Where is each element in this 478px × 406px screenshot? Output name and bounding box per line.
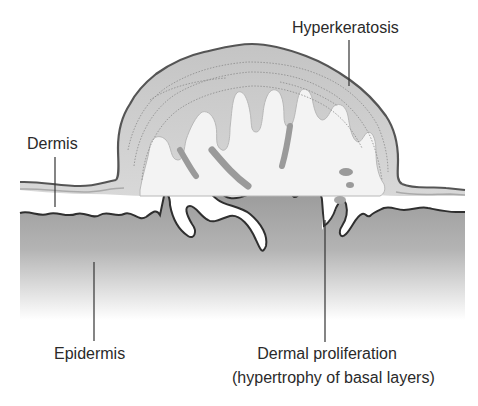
label-dermal-proliferation-line1: Dermal proliferation bbox=[232, 346, 422, 362]
skin-cross-section-diagram: Hyperkeratosis Dermis Epidermis Dermal p… bbox=[0, 0, 478, 406]
label-dermis: Dermis bbox=[27, 136, 78, 152]
label-hyperkeratosis: Hyperkeratosis bbox=[292, 20, 399, 36]
label-epidermis: Epidermis bbox=[54, 346, 125, 362]
label-dermal-proliferation: Dermal proliferation (hypertrophy of bas… bbox=[232, 346, 422, 386]
hyperkeratosis-dome bbox=[20, 44, 465, 196]
label-dermal-proliferation-line2: (hypertrophy of basal layers) bbox=[232, 370, 422, 386]
